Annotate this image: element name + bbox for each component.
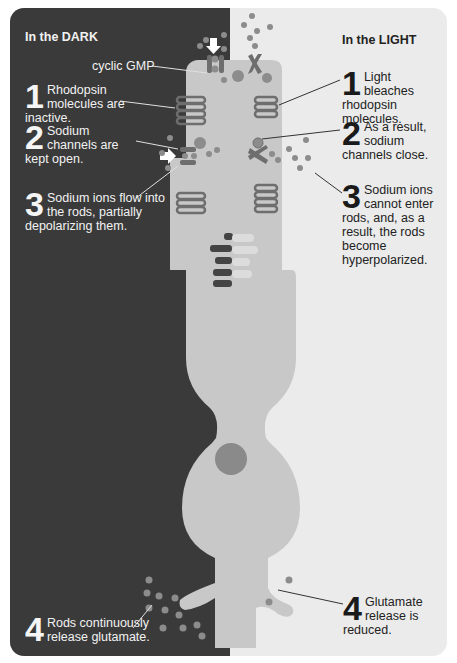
step-text: Rods continuously release glutamate. — [47, 616, 150, 644]
nucleus — [215, 443, 247, 475]
cgmp-label: cyclic GMP — [92, 59, 155, 73]
step-number: 3 — [25, 190, 44, 218]
step-number: 2 — [25, 123, 44, 151]
bleached-rhodopsin — [253, 138, 263, 148]
step-number: 2 — [342, 119, 361, 147]
light-step-2: 2 As a result, sodium channels close. — [342, 120, 438, 162]
step-text: Sodium ions flow into the rods, partiall… — [25, 191, 165, 233]
light-heading: In the LIGHT — [342, 33, 416, 47]
light-step-4: 4 Glutamate release is reduced. — [343, 595, 423, 637]
step-number: 1 — [25, 82, 44, 110]
step-number: 4 — [25, 615, 44, 643]
cgmp-molecule — [232, 70, 244, 82]
dark-step-3: 3 Sodium ions flow into the rods, partia… — [25, 191, 175, 233]
step-number: 3 — [342, 182, 361, 210]
step-number: 4 — [343, 594, 362, 622]
step-number: 1 — [342, 69, 361, 97]
dark-step-2: 2 Sodium channels are kept open. — [25, 124, 137, 166]
dark-step-4: 4 Rods continuously release glutamate. — [25, 616, 157, 644]
light-step-3: 3 Sodium ions cannot enter rods, and, as… — [342, 183, 437, 267]
diagram-panel: In the DARK cyclic GMP 1 Rhodopsin molec… — [10, 8, 447, 656]
dark-heading: In the DARK — [25, 30, 98, 44]
